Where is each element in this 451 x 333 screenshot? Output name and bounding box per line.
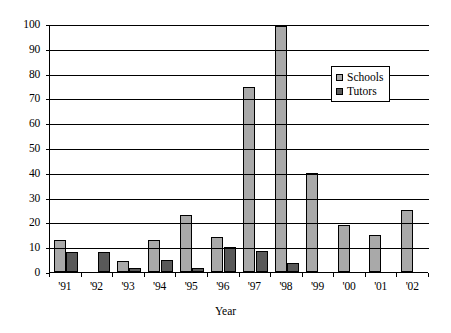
y-axis-tick-label: 80: [0, 69, 40, 81]
gridline: [50, 124, 429, 125]
x-axis-tick-mark: [81, 273, 82, 277]
y-axis-tick-label: 60: [0, 118, 40, 130]
chart-legend: Schools Tutors: [331, 66, 390, 102]
x-axis-tick-mark: [144, 273, 145, 277]
x-axis-tick-mark: [270, 273, 271, 277]
bar-tutors-92: [98, 252, 110, 272]
gridline: [50, 174, 429, 175]
y-axis-tick-label: 100: [0, 19, 40, 31]
y-axis-tick-label: 0: [0, 267, 40, 279]
bar-group: [50, 24, 82, 272]
x-axis-tick-label: '98: [270, 280, 302, 292]
x-axis-tick-mark: [49, 273, 50, 277]
legend-item-tutors: Tutors: [336, 84, 383, 98]
bar-group: [145, 24, 177, 272]
y-axis-tick-mark: [46, 25, 50, 26]
bar-group: [271, 24, 303, 272]
bar-schools-97: [243, 87, 255, 272]
x-axis-tick-label: '02: [396, 280, 428, 292]
legend-label-schools: Schools: [347, 71, 383, 83]
y-axis-tick-mark: [46, 248, 50, 249]
x-axis-tick-mark: [175, 273, 176, 277]
y-axis-tick-mark: [46, 50, 50, 51]
legend-swatch-schools-icon: [336, 74, 343, 81]
y-axis-tick-mark: [46, 174, 50, 175]
x-axis-tick-label: '94: [144, 280, 176, 292]
gridline: [50, 248, 429, 249]
x-axis-tick-label: '93: [112, 280, 144, 292]
bar-schools-02: [401, 210, 413, 272]
bar-group: [397, 24, 429, 272]
bar-group: [303, 24, 335, 272]
bar-tutors-96: [224, 247, 236, 272]
x-axis-tick-label: '91: [49, 280, 81, 292]
bar-group: [366, 24, 398, 272]
bar-group: [334, 24, 366, 272]
legend-label-tutors: Tutors: [347, 85, 377, 97]
y-axis-tick-label: 50: [0, 143, 40, 155]
x-axis-tick-label: '00: [333, 280, 365, 292]
x-axis-tick-label: '01: [365, 280, 397, 292]
x-axis-tick-mark: [239, 273, 240, 277]
bars-layer: [50, 24, 429, 272]
x-axis-tick-label: '92: [81, 280, 113, 292]
y-axis-tick-mark: [46, 223, 50, 224]
x-axis-tick-label: '97: [239, 280, 271, 292]
y-axis-tick-label: 30: [0, 193, 40, 205]
x-axis-tick-mark: [302, 273, 303, 277]
bar-group: [208, 24, 240, 272]
bar-schools-01: [369, 235, 381, 272]
bar-schools-93: [117, 261, 129, 272]
x-axis-title: Year: [0, 305, 451, 317]
plot-area: [49, 25, 428, 273]
bar-tutors-91: [66, 252, 78, 272]
bar-schools-91: [54, 240, 66, 272]
gridline: [50, 199, 429, 200]
x-axis-tick-mark: [112, 273, 113, 277]
gridline: [50, 223, 429, 224]
x-axis-tick-label: '95: [175, 280, 207, 292]
bar-chart: 0102030405060708090100 '91'92'93'94'95'9…: [0, 0, 451, 333]
bar-tutors-98: [287, 263, 299, 272]
bar-tutors-95: [192, 268, 204, 272]
bar-tutors-97: [256, 251, 268, 272]
bar-group: [113, 24, 145, 272]
x-axis-tick-mark: [365, 273, 366, 277]
bar-group: [176, 24, 208, 272]
y-axis-tick-mark: [46, 149, 50, 150]
gridline: [50, 25, 429, 26]
legend-item-schools: Schools: [336, 70, 383, 84]
bar-group: [240, 24, 272, 272]
x-axis-tick-mark: [396, 273, 397, 277]
legend-swatch-tutors-icon: [336, 88, 343, 95]
x-axis-tick-mark: [333, 273, 334, 277]
gridline: [50, 50, 429, 51]
x-axis-tick-mark: [428, 273, 429, 277]
y-axis-tick-mark: [46, 99, 50, 100]
bar-tutors-94: [161, 260, 173, 272]
y-axis-tick-mark: [46, 124, 50, 125]
bar-group: [82, 24, 114, 272]
bar-schools-94: [148, 240, 160, 272]
y-axis-tick-label: 70: [0, 93, 40, 105]
y-axis-tick-mark: [46, 199, 50, 200]
y-axis-tick-mark: [46, 75, 50, 76]
x-axis-tick-label: '99: [302, 280, 334, 292]
x-axis-tick-mark: [207, 273, 208, 277]
x-axis-tick-label: '96: [207, 280, 239, 292]
bar-tutors-93: [129, 268, 141, 272]
y-axis-tick-label: 10: [0, 242, 40, 254]
gridline: [50, 149, 429, 150]
y-axis-tick-label: 90: [0, 44, 40, 56]
y-axis-tick-label: 40: [0, 168, 40, 180]
bar-schools-96: [211, 237, 223, 272]
y-axis-tick-label: 20: [0, 217, 40, 229]
